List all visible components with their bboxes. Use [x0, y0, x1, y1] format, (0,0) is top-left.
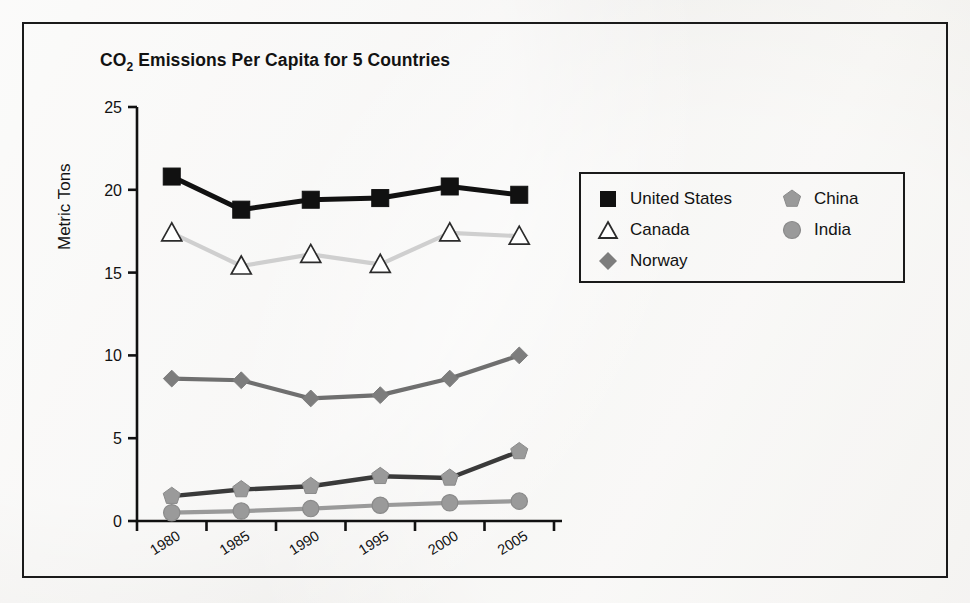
x-tick-label: 2000 — [425, 527, 461, 558]
data-point-marker — [163, 168, 180, 185]
legend-item-label: United States — [630, 189, 732, 209]
data-point-marker — [441, 178, 458, 195]
data-point-marker — [233, 503, 249, 519]
series-india — [164, 493, 528, 521]
legend-item-label: Norway — [630, 251, 688, 271]
data-point-marker — [442, 495, 458, 511]
circle-marker-icon — [781, 219, 803, 241]
data-point-marker — [441, 370, 458, 387]
legend-column-left: United StatesCanadaNorway — [597, 183, 732, 276]
series-china — [163, 442, 528, 503]
legend-item-india[interactable]: India — [781, 214, 858, 245]
legend-item-label: Canada — [630, 220, 690, 240]
data-point-marker — [233, 481, 250, 497]
y-tick-label: 20 — [104, 182, 122, 199]
series-canada — [162, 223, 530, 274]
y-tick-label: 0 — [113, 513, 122, 530]
chart-legend: United StatesCanadaNorway ChinaIndia — [579, 172, 905, 283]
y-tick-label: 5 — [113, 430, 122, 447]
data-point-marker — [303, 500, 319, 516]
data-point-marker — [372, 467, 389, 483]
diamond-marker-icon — [597, 250, 619, 272]
legend-item-norway[interactable]: Norway — [597, 245, 732, 276]
line-chart-plot: 0510152025 198019851990199520002005 — [0, 0, 970, 603]
data-point-marker — [302, 191, 319, 208]
data-point-marker — [233, 372, 250, 389]
pentagon-marker-icon — [781, 188, 803, 210]
data-point-marker — [233, 201, 250, 218]
legend-column-right: ChinaIndia — [781, 183, 858, 245]
data-point-marker — [163, 487, 180, 503]
y-tick-label: 25 — [104, 99, 122, 116]
data-point-marker — [163, 370, 180, 387]
x-axis-ticks: 198019851990199520002005 — [137, 521, 554, 558]
triangle-marker-icon — [597, 219, 619, 241]
x-tick-label: 1995 — [356, 527, 392, 558]
data-point-marker — [164, 505, 180, 521]
legend-item-canada[interactable]: Canada — [597, 214, 732, 245]
y-tick-label: 15 — [104, 265, 122, 282]
series-united-states — [163, 168, 528, 218]
x-tick-label: 1985 — [217, 527, 253, 558]
data-point-marker — [372, 387, 389, 404]
chart-series-group — [162, 168, 530, 521]
data-point-marker — [372, 497, 388, 513]
series-norway — [163, 347, 527, 407]
data-point-marker — [511, 347, 528, 364]
x-tick-label: 2005 — [495, 527, 531, 558]
data-point-marker — [302, 390, 319, 407]
x-tick-label: 1980 — [147, 527, 183, 558]
data-point-marker — [372, 190, 389, 207]
data-point-marker — [511, 442, 528, 458]
data-point-marker — [302, 477, 319, 493]
square-marker-icon — [597, 188, 619, 210]
legend-item-united-states[interactable]: United States — [597, 183, 732, 214]
legend-item-china[interactable]: China — [781, 183, 858, 214]
legend-item-label: India — [814, 220, 851, 240]
data-point-marker — [511, 186, 528, 203]
data-point-marker — [441, 469, 458, 485]
y-axis-ticks: 0510152025 — [104, 99, 137, 530]
y-tick-label: 10 — [104, 347, 122, 364]
x-tick-label: 1990 — [286, 527, 322, 558]
data-point-marker — [511, 493, 527, 509]
data-point-marker — [162, 223, 182, 241]
legend-item-label: China — [814, 189, 858, 209]
